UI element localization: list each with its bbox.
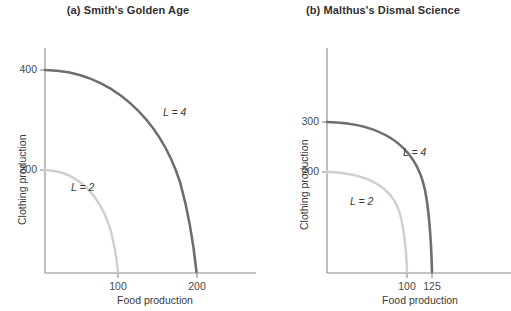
panel-a-y-axis-title: Clothing production — [16, 135, 28, 225]
panel-b-curve-label-L2: L = 2 — [350, 195, 373, 207]
panel-b-ytick-label-300: 300 — [287, 115, 319, 127]
panel-b-curve-L4 — [327, 122, 432, 272]
panel-b-y-axis-title: Clothing production — [298, 140, 310, 230]
panel-a-plot — [0, 0, 256, 311]
panel-malthuss-dismal-science: (b) Malthus's Dismal Science 300 200 100… — [255, 0, 511, 311]
panel-a-curve-label-L4: L = 4 — [163, 106, 186, 118]
panel-b-curve-L2 — [327, 172, 407, 272]
figure-root: (a) Smith's Golden Age 400 200 100 200 F… — [0, 0, 511, 311]
panel-b-x-axis-title: Food production — [345, 294, 495, 306]
panel-b-xtick-label-125: 125 — [412, 280, 452, 292]
panel-b-curve-label-L4: L = 4 — [403, 146, 426, 158]
panel-a-curve-label-L2: L = 2 — [71, 181, 94, 193]
panel-a-curve-L4 — [45, 70, 197, 272]
panel-smiths-golden-age: (a) Smith's Golden Age 400 200 100 200 F… — [0, 0, 256, 311]
panel-a-xtick-label-100: 100 — [98, 280, 138, 292]
panel-a-x-axis-title: Food production — [80, 294, 230, 306]
panel-a-xtick-label-200: 200 — [177, 280, 217, 292]
panel-b-plot — [255, 0, 511, 311]
panel-a-ytick-label-400: 400 — [5, 63, 37, 75]
